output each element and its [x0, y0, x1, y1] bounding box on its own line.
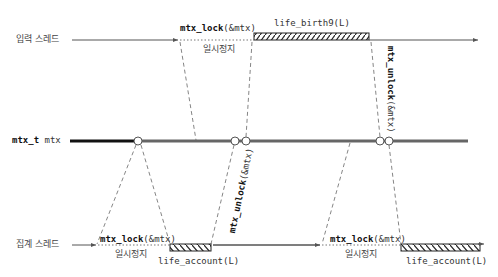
bottom-work1-label: life_account(L)	[158, 257, 239, 266]
fn-arg: (&mtx)	[373, 234, 406, 244]
top-pause-label: 일시정지	[203, 45, 235, 54]
bottom-work2-label: life_account(L)	[406, 257, 487, 266]
top-lock-call: mtx_lock(&mtx)	[180, 24, 256, 33]
input-thread-label: 입력 스레드	[16, 35, 59, 44]
input-thread-timeline	[72, 33, 478, 40]
fn-arg: (&mtx)	[223, 23, 256, 33]
aggregate-thread-label: 집계 스레드	[16, 240, 59, 249]
fn-name: mtx_lock	[180, 23, 223, 33]
bottom-lock2-call: mtx_lock(&mtx)	[330, 235, 406, 244]
bottom-pause2-label: 일시정지	[345, 250, 377, 259]
mutex-type: mtx_t	[12, 135, 39, 145]
bottom-lock1-call: mtx_lock(&mtx)	[100, 235, 176, 244]
fn-arg: (&mtx)	[386, 100, 396, 133]
fn-name: mtx_lock	[100, 234, 143, 244]
bottom-pause1-label: 일시정지	[115, 250, 147, 259]
fn-name: mtx_unlock	[386, 46, 396, 100]
mutex-name: mtx	[45, 135, 61, 145]
top-unlock-call: mtx_unlock(&mtx)	[386, 46, 395, 133]
diagram-canvas	[0, 0, 498, 277]
mutex-label: mtx_t mtx	[12, 136, 61, 145]
fn-arg: (&mtx)	[143, 234, 176, 244]
top-work-label: life_birth9(L)	[274, 19, 350, 28]
fn-name: mtx_lock	[330, 234, 373, 244]
